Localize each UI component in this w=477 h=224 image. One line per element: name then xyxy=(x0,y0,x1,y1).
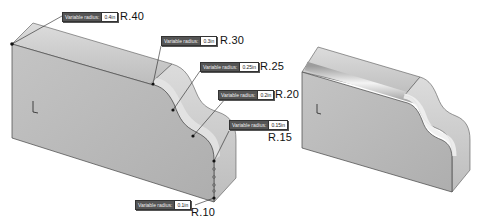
callout-value-field[interactable]: 0.2in xyxy=(257,91,273,99)
radius-label: R.10 xyxy=(191,206,215,218)
callout-label: Variable radius: xyxy=(136,201,174,209)
callout-value-field[interactable]: 0.4in xyxy=(101,13,117,21)
callout-value-field[interactable]: 0.1in xyxy=(174,201,190,209)
radius-label: R.15 xyxy=(268,131,292,143)
right-part-model xyxy=(302,47,470,192)
callout-label: Variable radius: xyxy=(219,91,257,99)
radius-label: R.30 xyxy=(220,34,244,46)
variable-radius-callout-1[interactable]: Variable radius: 0.3in xyxy=(161,36,217,46)
callout-value-field[interactable]: 0.15in xyxy=(268,121,287,129)
callout-value-field[interactable]: 0.25in xyxy=(239,63,258,71)
callout-value-field[interactable]: 0.3in xyxy=(200,37,216,45)
variable-radius-callout-0[interactable]: Variable radius: 0.4in xyxy=(62,12,118,22)
variable-radius-callout-3[interactable]: Variable radius: 0.2in xyxy=(218,90,274,100)
callout-label: Variable radius: xyxy=(201,63,239,71)
callout-label: Variable radius: xyxy=(162,37,200,45)
variable-radius-callout-2[interactable]: Variable radius: 0.25in xyxy=(200,62,259,72)
callout-label: Variable radius: xyxy=(63,13,101,21)
radius-label: R.40 xyxy=(120,10,144,22)
radius-label: R.20 xyxy=(275,88,299,100)
variable-radius-callout-4[interactable]: Variable radius: 0.15in xyxy=(229,120,288,130)
callout-label: Variable radius: xyxy=(230,121,268,129)
variable-radius-callout-5[interactable]: Variable radius: 0.1in xyxy=(135,200,191,210)
radius-label: R.25 xyxy=(260,60,284,72)
